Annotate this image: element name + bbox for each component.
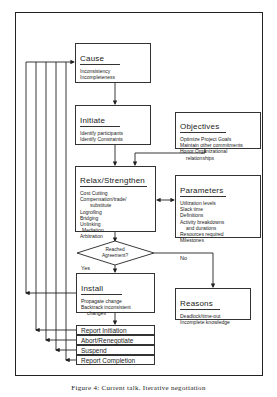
initiate-item: Identify Constraints bbox=[80, 136, 146, 142]
relax-title: Relax/Strengthen bbox=[80, 176, 147, 187]
decision-label: Reached Agreement? bbox=[95, 247, 135, 259]
parameters-box: Parameters Utilization levels Slack time… bbox=[175, 175, 261, 238]
reasons-box: Reasons Deadlock/time-out Incomplete kno… bbox=[175, 288, 251, 320]
install-box: Install Propagate change Backtrack incon… bbox=[76, 273, 155, 313]
reasons-item: Incomplete knowledge bbox=[180, 319, 246, 325]
relax-strengthen-box: Relax/Strengthen Cost Cutting Compensati… bbox=[75, 166, 156, 232]
objectives-item: relationships bbox=[180, 155, 256, 161]
objectives-box: Objectives Optimize Project Goals Mainta… bbox=[175, 112, 261, 149]
no-label: No bbox=[180, 255, 187, 261]
parameters-item: Milestones bbox=[180, 237, 256, 243]
reasons-title: Reasons bbox=[180, 299, 220, 310]
report-completion: Report Completion bbox=[76, 355, 155, 365]
cause-box: Cause Inconsistency Incompleteness bbox=[75, 43, 151, 83]
initiate-box: Initiate Identify participants Identify … bbox=[75, 105, 151, 145]
decision-line2: Agreement? bbox=[95, 253, 135, 259]
abort-renegotiate: Abort/Renegotiate bbox=[76, 335, 155, 345]
suspend: Suspend bbox=[76, 345, 155, 355]
install-item: changes bbox=[81, 310, 150, 316]
initiate-title: Initiate bbox=[80, 116, 120, 127]
relax-item: Arbitration bbox=[80, 233, 151, 239]
report-initiation: Report Initiation bbox=[76, 325, 155, 335]
objectives-title: Objectives bbox=[180, 122, 226, 133]
yes-label: Yes bbox=[81, 265, 90, 271]
install-title: Install bbox=[81, 284, 122, 295]
figure-caption: Figure 4: Current talk. Iterative negoti… bbox=[0, 384, 277, 392]
parameters-title: Parameters bbox=[180, 186, 226, 197]
cause-title: Cause bbox=[80, 54, 120, 65]
cause-item: Incompleteness bbox=[80, 74, 146, 80]
